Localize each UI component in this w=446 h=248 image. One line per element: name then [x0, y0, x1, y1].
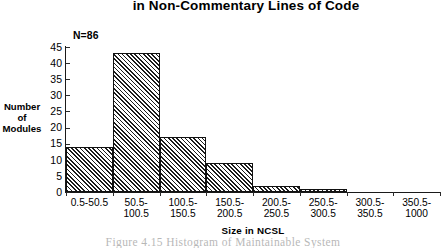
histogram-bar [160, 137, 207, 192]
page-title: in Non-Commentary Lines of Code [0, 0, 446, 13]
y-axis-tick-label: 10 [40, 155, 62, 165]
histogram-bar [206, 163, 253, 192]
y-axis-tick-label: 45 [40, 42, 62, 52]
y-axis-tick-label: 30 [40, 90, 62, 100]
x-axis-tick-mark [300, 192, 301, 196]
x-axis-tick-mark [160, 192, 161, 196]
y-axis-tick-label: 0 [40, 187, 62, 197]
histogram-bar [66, 147, 113, 192]
histogram-bar [300, 189, 347, 192]
y-axis-title: NumberofModules [0, 101, 44, 135]
histogram-bar [113, 53, 160, 192]
x-axis-tick-mark [206, 192, 207, 196]
x-axis-tick-mark [393, 192, 394, 196]
x-axis-title: Size in NCSL [66, 225, 440, 236]
x-axis-tick-mark [253, 192, 254, 196]
x-axis-tick-mark [347, 192, 348, 196]
x-axis-tick-mark [113, 192, 114, 196]
x-axis-tick-labels: 0.5-50.550.5- 100.5100.5- 150.5150.5- 20… [66, 197, 440, 223]
figure-caption: Figure 4.15 Histogram of Maintainable Sy… [0, 236, 446, 248]
y-axis-title-line: Modules [0, 123, 44, 134]
histogram-bar [253, 186, 300, 192]
x-axis-tick-mark [440, 192, 441, 196]
x-axis-tick-label: 350.5- 1000 [389, 197, 444, 220]
y-axis-title-line: of [0, 112, 44, 123]
y-axis-tick-label: 5 [40, 171, 62, 181]
plot-area [66, 47, 440, 192]
y-axis-tick-label: 35 [40, 74, 62, 84]
sample-size-annotation: N=86 [73, 30, 99, 41]
y-axis-tick-label: 40 [40, 58, 62, 68]
y-axis-title-line: Number [0, 101, 44, 112]
x-axis-tick-mark [66, 192, 67, 196]
y-axis-tick-label: 15 [40, 138, 62, 148]
